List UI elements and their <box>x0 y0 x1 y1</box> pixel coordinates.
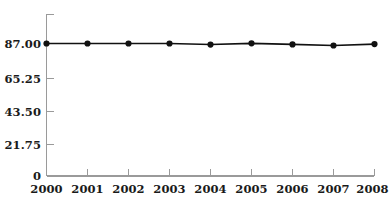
x-tick-label-2005: 2005 <box>235 182 267 196</box>
x-tick-label-2001: 2001 <box>71 182 103 196</box>
y-tick-label-43: 43.50 <box>0 105 41 119</box>
data-point-2001 <box>84 40 90 46</box>
chart-plot-area <box>0 0 392 206</box>
x-tick-label-2000: 2000 <box>30 182 62 196</box>
x-axis-ticks <box>47 169 375 176</box>
data-point-2000 <box>43 40 49 46</box>
data-point-2003 <box>166 40 172 46</box>
series-markers <box>43 40 377 48</box>
data-point-2002 <box>125 40 131 46</box>
y-tick-label-0: 0 <box>0 169 41 183</box>
y-tick-label-87: 87.00 <box>0 37 41 51</box>
data-point-2007 <box>330 42 336 48</box>
data-point-2006 <box>289 41 295 47</box>
data-point-2005 <box>248 40 254 46</box>
x-tick-label-2008: 2008 <box>356 182 388 196</box>
x-tick-label-2002: 2002 <box>112 182 144 196</box>
x-tick-label-2004: 2004 <box>194 182 226 196</box>
x-tick-label-2003: 2003 <box>153 182 185 196</box>
line-chart: 87.00 65.25 43.50 21.75 0 2000 2001 2002… <box>0 0 392 206</box>
data-point-2008 <box>371 41 377 47</box>
y-tick-label-65: 65.25 <box>0 72 41 86</box>
y-axis-ticks <box>47 44 55 145</box>
data-point-2004 <box>207 41 213 47</box>
x-tick-label-2006: 2006 <box>276 182 308 196</box>
y-tick-label-21: 21.75 <box>0 138 41 152</box>
x-tick-label-2007: 2007 <box>317 182 349 196</box>
